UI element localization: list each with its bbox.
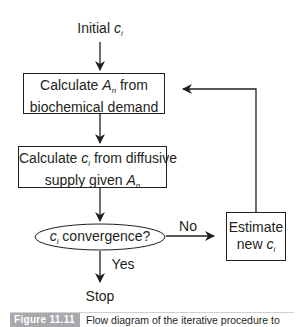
- start-label-var: c: [114, 20, 121, 36]
- node-calc-ci-label: Calculate ci from diffusive supply given…: [19, 150, 166, 194]
- node-estimate-line2: new ci: [227, 236, 285, 258]
- node-calc-an-line1: Calculate An from: [24, 77, 164, 99]
- text: from diffusive: [90, 150, 177, 166]
- figure-tag: Figure 11.11: [10, 313, 80, 327]
- figure-caption-text: Flow diagram of the iterative procedure …: [86, 313, 280, 327]
- start-label: Initial ci: [60, 20, 140, 42]
- node-estimate-line1: Estimate: [227, 219, 285, 236]
- text: Calculate: [19, 150, 81, 166]
- text: supply given: [45, 172, 127, 188]
- text: convergence?: [58, 228, 150, 244]
- edge-label-no: No: [176, 218, 200, 235]
- start-label-sub: i: [121, 29, 123, 38]
- node-convergence-label: ci convergence?: [36, 228, 164, 250]
- node-calc-ci-line2: supply given An: [19, 172, 166, 194]
- end-label-stop: Stop: [78, 288, 122, 305]
- text: from: [116, 77, 148, 93]
- node-calc-an-line2: biochemical demand: [24, 99, 164, 116]
- text: new: [237, 236, 267, 252]
- sub: i: [273, 245, 275, 254]
- sub: n: [136, 181, 140, 190]
- node-calc-ci-line1: Calculate ci from diffusive: [19, 150, 166, 172]
- node-calc-an-label: Calculate An from biochemical demand: [24, 77, 164, 116]
- text: Calculate: [40, 77, 102, 93]
- node-estimate-label: Estimate new ci: [227, 219, 285, 258]
- start-label-text: Initial: [77, 20, 114, 36]
- edge-label-yes: Yes: [108, 256, 138, 273]
- var: A: [126, 172, 135, 188]
- var: c: [50, 228, 57, 244]
- var: A: [102, 77, 111, 93]
- arrow-estimate-to-calc-an: [183, 89, 256, 212]
